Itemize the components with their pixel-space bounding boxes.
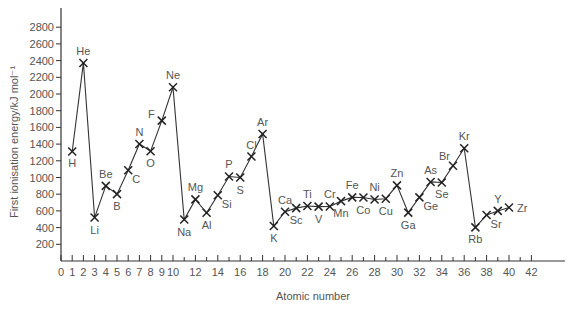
x-tick-label: 30 xyxy=(391,266,403,278)
element-label-na: Na xyxy=(177,226,192,238)
x-tick-label: 4 xyxy=(103,266,109,278)
element-label-as: As xyxy=(424,164,437,176)
element-label-co: Co xyxy=(356,204,370,216)
element-label-f: F xyxy=(148,108,155,120)
element-label-zn: Zn xyxy=(391,167,404,179)
x-tick-label: 22 xyxy=(301,266,313,278)
ionisation-energy-chart: 2004006008001000120014001600180020002200… xyxy=(0,0,572,310)
x-tick-label: 8 xyxy=(148,266,154,278)
x-tick-label: 24 xyxy=(324,266,336,278)
element-label-c: C xyxy=(132,173,140,185)
x-marker-icon xyxy=(102,182,110,190)
x-tick-label: 6 xyxy=(125,266,131,278)
x-marker-icon xyxy=(505,204,513,212)
element-label-fe: Fe xyxy=(346,179,359,191)
x-marker-icon xyxy=(281,208,289,216)
element-label-kr: Kr xyxy=(459,130,470,142)
element-label-cl: Cl xyxy=(246,139,256,151)
y-axis-title: First ionisation energy/kJ mol⁻¹ xyxy=(8,66,20,218)
ticks: 2004006008001000120014001600180020002200… xyxy=(30,21,538,278)
element-label-mn: Mn xyxy=(333,207,348,219)
x-tick-label: 1 xyxy=(69,266,75,278)
element-label-n: N xyxy=(135,126,143,138)
element-label-sr: Sr xyxy=(491,218,502,230)
x-marker-icon xyxy=(247,153,255,161)
x-tick-label: 5 xyxy=(114,266,120,278)
element-label-v: V xyxy=(315,213,323,225)
element-label-br: Br xyxy=(439,150,450,162)
element-label-rb: Rb xyxy=(468,233,482,245)
x-marker-icon xyxy=(147,147,155,155)
y-tick-label: 200 xyxy=(36,238,54,250)
x-marker-icon xyxy=(113,190,121,198)
x-tick-label: 0 xyxy=(58,266,64,278)
x-tick-label: 10 xyxy=(167,266,179,278)
x-marker-icon xyxy=(214,191,222,199)
y-tick-label: 2200 xyxy=(30,71,54,83)
x-marker-icon xyxy=(449,162,457,170)
y-tick-label: 600 xyxy=(36,205,54,217)
element-label-li: Li xyxy=(90,224,99,236)
x-tick-label: 28 xyxy=(368,266,380,278)
element-label-al: Al xyxy=(202,219,212,231)
x-marker-icon xyxy=(415,193,423,201)
y-tick-label: 2800 xyxy=(30,21,54,33)
x-marker-icon xyxy=(494,207,502,215)
element-label-zr: Zr xyxy=(517,202,528,214)
element-label-ca: Ca xyxy=(278,194,293,206)
element-label-se: Se xyxy=(435,188,448,200)
x-tick-label: 38 xyxy=(480,266,492,278)
x-tick-label: 34 xyxy=(436,266,448,278)
element-label-ga: Ga xyxy=(401,219,417,231)
x-tick-label: 14 xyxy=(212,266,224,278)
element-label-si: Si xyxy=(222,198,232,210)
x-tick-label: 2 xyxy=(80,266,86,278)
element-label-y: Y xyxy=(494,193,502,205)
element-label-o: O xyxy=(146,157,155,169)
x-tick-label: 36 xyxy=(458,266,470,278)
y-tick-label: 2600 xyxy=(30,38,54,50)
element-label-be: Be xyxy=(99,168,112,180)
x-tick-label: 9 xyxy=(159,266,165,278)
y-tick-label: 1800 xyxy=(30,105,54,117)
x-tick-label: 7 xyxy=(136,266,142,278)
y-tick-label: 400 xyxy=(36,222,54,234)
y-tick-label: 1200 xyxy=(30,155,54,167)
element-label-b: B xyxy=(113,200,120,212)
x-marker-icon xyxy=(483,211,491,219)
x-marker-icon xyxy=(337,197,345,205)
element-label-h: H xyxy=(68,157,76,169)
element-label-cr: Cr xyxy=(324,188,336,200)
x-tick-label: 32 xyxy=(413,266,425,278)
x-marker-icon xyxy=(191,195,199,203)
x-marker-icon xyxy=(203,209,211,217)
element-label-ne: Ne xyxy=(166,69,180,81)
x-tick-label: 3 xyxy=(92,266,98,278)
x-marker-icon xyxy=(404,209,412,217)
x-tick-label: 26 xyxy=(346,266,358,278)
x-marker-icon xyxy=(393,181,401,189)
x-marker-icon xyxy=(124,166,132,174)
element-label-p: P xyxy=(225,158,232,170)
element-label-ge: Ge xyxy=(423,200,438,212)
element-label-ar: Ar xyxy=(257,116,268,128)
element-label-mg: Mg xyxy=(188,181,203,193)
x-tick-label: 16 xyxy=(234,266,246,278)
y-tick-label: 1400 xyxy=(30,138,54,150)
x-tick-label: 40 xyxy=(503,266,515,278)
element-label-sc: Sc xyxy=(290,214,303,226)
x-tick-label: 42 xyxy=(525,266,537,278)
element-label-cu: Cu xyxy=(379,205,393,217)
y-tick-label: 800 xyxy=(36,188,54,200)
x-marker-icon xyxy=(158,117,166,125)
x-tick-label: 18 xyxy=(256,266,268,278)
x-axis-title: Atomic number xyxy=(276,290,350,302)
element-label-ti: Ti xyxy=(303,188,312,200)
y-tick-label: 1600 xyxy=(30,121,54,133)
element-label-he: He xyxy=(76,45,90,57)
element-label-k: K xyxy=(270,232,278,244)
x-tick-label: 12 xyxy=(189,266,201,278)
element-label-ni: Ni xyxy=(369,181,379,193)
element-label-s: S xyxy=(237,184,244,196)
x-marker-icon xyxy=(135,140,143,148)
